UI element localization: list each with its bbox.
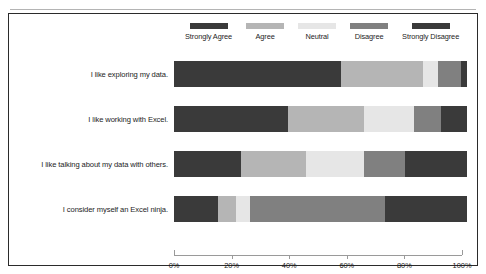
x-axis-tick-label: 0% bbox=[169, 261, 180, 270]
bar-segment-agree[interactable] bbox=[341, 61, 423, 87]
bar-segment-neutral[interactable] bbox=[306, 151, 365, 177]
bar-segment-agree[interactable] bbox=[288, 106, 364, 132]
chart-row: I like exploring my data. bbox=[19, 61, 467, 87]
bar-segment-disagree[interactable] bbox=[250, 196, 385, 222]
bar-segment-agree[interactable] bbox=[218, 196, 236, 222]
stacked-bar[interactable] bbox=[174, 151, 467, 177]
stacked-bar[interactable] bbox=[174, 196, 467, 222]
bar-segment-disagree[interactable] bbox=[438, 61, 461, 87]
bar-segment-disagree[interactable] bbox=[364, 151, 405, 177]
bar-segment-strongly-disagree[interactable] bbox=[441, 106, 467, 132]
x-axis-tick bbox=[174, 250, 175, 255]
category-label: I consider myself an Excel ninja. bbox=[19, 205, 174, 214]
x-axis-tick-label: 60% bbox=[339, 261, 354, 270]
bar-segment-strongly-disagree[interactable] bbox=[385, 196, 467, 222]
category-label: I like talking about my data with others… bbox=[19, 160, 174, 169]
bar-segment-strongly-agree[interactable] bbox=[174, 151, 241, 177]
bar-segment-strongly-disagree[interactable] bbox=[405, 151, 467, 177]
bar-segment-agree[interactable] bbox=[241, 151, 305, 177]
chart-frame: Strongly AgreeAgreeNeutralDisagreeStrong… bbox=[8, 13, 478, 266]
bar-segment-neutral[interactable] bbox=[423, 61, 438, 87]
plot-area: I like exploring my data.I like working … bbox=[9, 14, 477, 265]
chart-row: I like talking about my data with others… bbox=[19, 151, 467, 177]
cropped-header-text bbox=[0, 0, 486, 8]
bar-segment-neutral[interactable] bbox=[364, 106, 414, 132]
category-label: I like working with Excel. bbox=[19, 115, 174, 124]
bar-segment-disagree[interactable] bbox=[414, 106, 440, 132]
x-axis-tick bbox=[289, 255, 290, 259]
x-axis-tick-label: 40% bbox=[282, 261, 297, 270]
bar-segment-neutral[interactable] bbox=[236, 196, 251, 222]
x-axis-tick bbox=[462, 250, 463, 255]
x-axis-tick-label: 80% bbox=[397, 261, 412, 270]
chart-row: I like working with Excel. bbox=[19, 106, 467, 132]
stacked-bar[interactable] bbox=[174, 106, 467, 132]
bar-segment-strongly-disagree[interactable] bbox=[461, 61, 467, 87]
header-divider-rule bbox=[10, 9, 476, 10]
stacked-bar[interactable] bbox=[174, 61, 467, 87]
bar-segment-strongly-agree[interactable] bbox=[174, 61, 341, 87]
x-axis-tick bbox=[232, 255, 233, 259]
x-axis-tick-label: 20% bbox=[224, 261, 239, 270]
x-axis-tick bbox=[404, 255, 405, 259]
category-label: I like exploring my data. bbox=[19, 70, 174, 79]
bar-segment-strongly-agree[interactable] bbox=[174, 106, 288, 132]
chart-row: I consider myself an Excel ninja. bbox=[19, 196, 467, 222]
x-axis-tick bbox=[347, 255, 348, 259]
x-axis-line bbox=[174, 255, 462, 256]
x-axis-tick-label: 100% bbox=[453, 261, 472, 270]
bar-segment-strongly-agree[interactable] bbox=[174, 196, 218, 222]
